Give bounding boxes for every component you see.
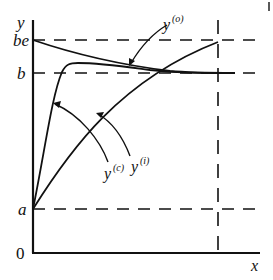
svg-text:(c): (c) <box>113 162 125 174</box>
svg-text:y: y <box>161 16 171 34</box>
svg-text:(i): (i) <box>140 155 150 167</box>
curve-label-y-c: y (c) <box>102 162 125 183</box>
level-label-be: be <box>13 31 30 50</box>
svg-text:(o): (o) <box>172 13 184 25</box>
origin-label: 0 <box>16 244 25 263</box>
diagram: y x 0 be b a y (o) y (c) y (i) <box>0 0 273 280</box>
svg-text:y: y <box>129 158 139 176</box>
level-label-a: a <box>18 200 27 219</box>
pointer-y-o <box>131 25 167 63</box>
curve-y-i <box>33 63 235 209</box>
curve-label-y-i: y (i) <box>129 155 150 176</box>
curve-label-y-o: y (o) <box>161 13 184 34</box>
svg-text:y: y <box>102 165 112 183</box>
y-axis-label: y <box>15 13 25 32</box>
level-label-b: b <box>17 64 26 83</box>
x-axis-label: x <box>250 257 258 274</box>
